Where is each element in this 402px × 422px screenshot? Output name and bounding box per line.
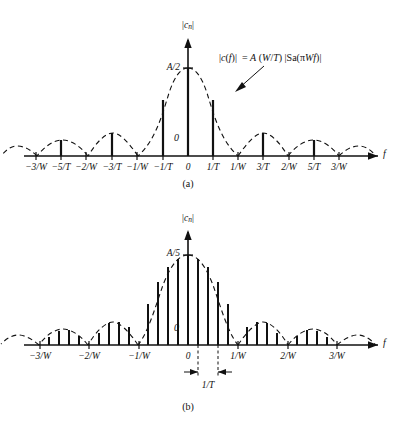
caption-a: (a) bbox=[182, 178, 193, 189]
spacing-indicator-b bbox=[184, 345, 232, 377]
xtick-label-a-5: −1/T bbox=[153, 162, 172, 172]
xtick-label-a-4: −1/W bbox=[126, 162, 148, 172]
x-axis-label-b: f bbox=[383, 337, 386, 348]
xtick-label-b-1: −2/W bbox=[78, 351, 100, 361]
chart-panel-b: |cn| f A/5 0 −3/W −2/W −1/W 0 1/W 2/W 3/… bbox=[0, 205, 402, 422]
xtick-label-a-0: −3/W bbox=[25, 162, 47, 172]
x-axis-a bbox=[24, 152, 378, 159]
xtick-label-a-3: −3/T bbox=[102, 162, 121, 172]
annotation-leader-a bbox=[235, 66, 264, 92]
x-axis-label-a: f bbox=[383, 148, 386, 159]
xtick-label-b-4: 1/W bbox=[230, 351, 245, 361]
envelope-equation-a: |c(f)| = A (W/T) |Sa(πWf)| bbox=[219, 52, 321, 63]
xtick-label-b-5: 2/W bbox=[280, 351, 295, 361]
xtick-label-a-9: 3/T bbox=[257, 162, 270, 172]
origin-label-a: 0 bbox=[174, 132, 179, 143]
xtick-label-a-7: 1/T bbox=[207, 162, 220, 172]
xtick-label-b-3: 0 bbox=[186, 351, 191, 361]
chart-panel-a: |cn| f A/2 0 |c(f)| = A (W/T) |Sa(πWf)| … bbox=[0, 0, 402, 205]
y-axis-label-a: |cn| bbox=[182, 20, 194, 31]
figure-container: |cn| f A/2 0 |c(f)| = A (W/T) |Sa(πWf)| … bbox=[0, 0, 402, 422]
y-axis-label-b: |cn| bbox=[182, 213, 194, 224]
xtick-label-b-2: −1/W bbox=[128, 351, 150, 361]
xtick-label-a-8: 1/W bbox=[230, 162, 245, 172]
xtick-label-a-10: 2/W bbox=[281, 162, 296, 172]
xtick-label-a-2: −2/W bbox=[75, 162, 97, 172]
xtick-label-b-6: 3/W bbox=[329, 351, 344, 361]
spectral-lines-b bbox=[49, 255, 327, 345]
xtick-label-a-11: 5/T bbox=[308, 162, 321, 172]
xtick-label-a-6: 0 bbox=[186, 162, 191, 172]
origin-label-b: 0 bbox=[174, 322, 179, 333]
chart-a-canvas bbox=[0, 0, 402, 205]
xtick-label-a-1: −5/T bbox=[51, 162, 70, 172]
x-axis-b bbox=[24, 341, 378, 348]
xtick-label-a-12: 3/W bbox=[331, 162, 346, 172]
xtick-label-b-0: −3/W bbox=[29, 351, 51, 361]
peak-value-label-b: A/5 bbox=[167, 248, 180, 258]
spacing-label-b: 1/T bbox=[202, 380, 215, 390]
caption-b: (b) bbox=[182, 401, 194, 412]
peak-value-label-a: A/2 bbox=[167, 62, 180, 72]
spectral-lines-a bbox=[61, 68, 314, 156]
